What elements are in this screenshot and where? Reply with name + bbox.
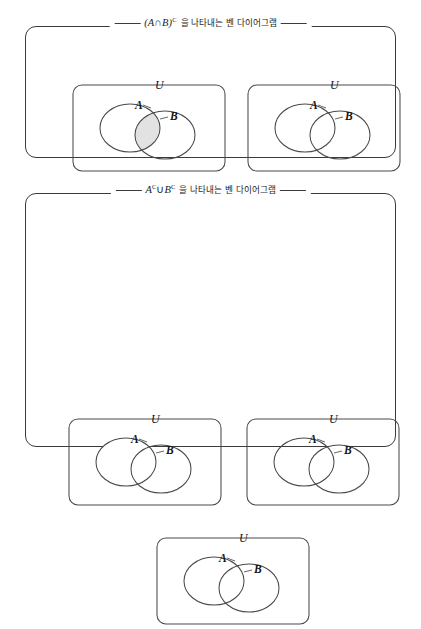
set-b-label: B — [169, 110, 178, 122]
set-b-label: B — [253, 563, 262, 575]
venn-group-union-of-complements: AC∪BC 을 나타내는 벤 다이어그램 U A B — [25, 193, 396, 447]
group-1-caption: (A∩B)C 을 나타내는 벤 다이어그램 — [109, 18, 312, 29]
label-b-leader — [244, 570, 252, 572]
venn-group-intersection-complement: (A∩B)C 을 나타내는 벤 다이어그램 U A B — [25, 26, 396, 158]
caption-rule-left — [115, 190, 141, 191]
caption-formula: AC∪BC — [145, 185, 175, 196]
venn-panel-intersection-complement: U A B — [248, 78, 400, 178]
caption-rule-right — [281, 23, 307, 24]
caption-rule-left — [114, 23, 140, 24]
caption-rule-right — [280, 190, 306, 191]
universe-label: U — [151, 412, 161, 426]
universe-label: U — [239, 531, 249, 545]
label-b-leader — [156, 451, 164, 453]
universe-label: U — [330, 78, 340, 92]
set-b-label: B — [165, 444, 174, 456]
set-a-label: A — [308, 433, 317, 445]
set-b-label: B — [344, 110, 353, 122]
caption-formula: (A∩B)C — [144, 18, 176, 29]
set-a-label: A — [218, 552, 227, 564]
venn-panel-a-intersect-b: U A B — [73, 78, 225, 178]
set-a-label: A — [134, 99, 143, 111]
set-a-label: A — [309, 99, 318, 111]
set-a-label: A — [130, 433, 139, 445]
caption-korean-text: 을 나타내는 벤 다이어그램 — [179, 186, 275, 195]
group-2-caption: AC∪BC 을 나타내는 벤 다이어그램 — [110, 185, 310, 196]
venn-panel-b-complement: U A B — [247, 412, 399, 512]
universe-label: U — [155, 78, 165, 92]
venn-panel-union-of-complements: U A B — [157, 531, 309, 629]
label-b-leader — [335, 117, 343, 119]
venn-panel-a-complement: U A B — [69, 412, 221, 512]
label-b-leader — [160, 117, 168, 119]
set-b-label: B — [343, 444, 352, 456]
universe-label: U — [329, 412, 339, 426]
caption-korean-text: 을 나타내는 벤 다이어그램 — [181, 19, 277, 28]
